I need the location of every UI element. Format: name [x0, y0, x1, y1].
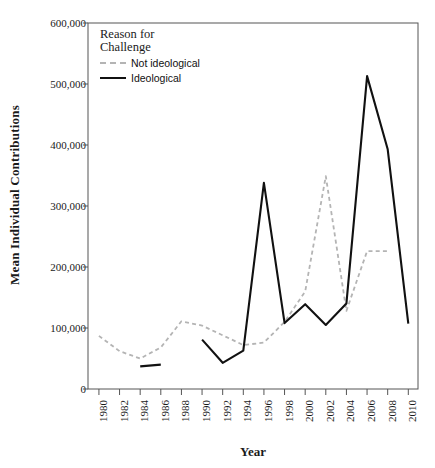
dashed-line-swatch-icon — [100, 62, 126, 64]
x-axis-tick-label: 1990 — [200, 400, 212, 422]
legend-title-line-2: Challenge — [100, 41, 200, 54]
series-line-ideological — [202, 76, 408, 363]
legend-item-not-ideological: Not ideological — [100, 57, 200, 69]
series-line-ideological — [140, 365, 161, 367]
solid-line-swatch-icon — [100, 77, 126, 79]
x-axis-tick-label: 1980 — [97, 400, 109, 422]
x-axis-tick-label: 1996 — [262, 400, 274, 422]
x-axis-title: Year — [88, 444, 418, 460]
x-axis-tick-label: 2006 — [365, 400, 377, 422]
x-axis-tick-label: 1994 — [241, 400, 253, 422]
x-axis-tick-label: 2000 — [303, 400, 315, 422]
x-axis-tick-label: 2008 — [386, 400, 398, 422]
legend-title: Reason for Challenge — [100, 28, 200, 54]
x-axis-tick-label: 2002 — [324, 400, 336, 422]
x-axis-tick-label: 1982 — [118, 400, 130, 422]
series-line-not-ideological — [99, 176, 388, 358]
x-axis-tick-label: 1986 — [159, 400, 171, 422]
legend-item-label: Not ideological — [131, 57, 200, 69]
x-axis-tick-label: 1992 — [221, 400, 233, 422]
legend-item-label: Ideological — [131, 72, 181, 84]
legend-item-ideological: Ideological — [100, 72, 200, 84]
x-axis-tick-label: 2004 — [344, 400, 356, 422]
line-chart: Mean Individual Contributions 0100,00020… — [0, 0, 435, 468]
x-axis-tick-label: 2010 — [406, 400, 418, 422]
legend: Reason for Challenge Not ideological Ide… — [100, 28, 200, 84]
x-axis-tick-label: 1998 — [283, 400, 295, 422]
x-axis-tick-label: 1988 — [179, 400, 191, 422]
x-axis-tick-label: 1984 — [138, 400, 150, 422]
